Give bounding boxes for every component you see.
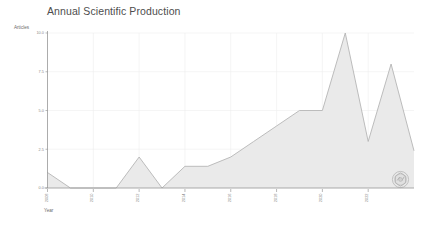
annual-scientific-production-chart: Annual Scientific Production Articles Ye…: [0, 0, 433, 226]
y-tick-label: 5.0: [39, 108, 45, 113]
x-tick-label: 2016: [227, 194, 232, 203]
y-tick-label: 2.5: [39, 147, 44, 152]
x-tick-label: 2020: [318, 193, 323, 202]
x-tick-label: 2010: [89, 193, 94, 202]
x-tick-label: 2008: [44, 194, 49, 203]
logo-watermark-icon: [391, 170, 410, 189]
x-tick-label: 2012: [135, 194, 140, 203]
x-tick-label: 2014: [181, 193, 186, 202]
x-tick-label: 2018: [273, 194, 278, 203]
plot-area: 0.02.55.07.510.0 20082010201220142016201…: [0, 0, 433, 226]
x-tick-label: 2022: [364, 194, 369, 203]
y-tick-label: 7.5: [39, 69, 44, 74]
y-tick-labels: 0.02.55.07.510.0: [36, 30, 44, 190]
x-tick-labels: 20082010201220142016201820202022: [44, 193, 370, 202]
y-tick-label: 10.0: [36, 30, 44, 35]
y-tick-label: 0.0: [39, 185, 45, 190]
